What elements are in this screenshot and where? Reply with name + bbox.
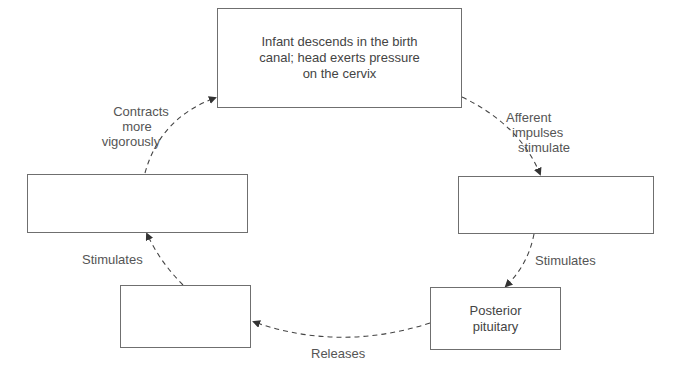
edge-label-line: Releases: [311, 346, 365, 361]
edge-label-line: vigorously: [82, 134, 180, 149]
edge-label-line: impulses: [506, 125, 570, 140]
node-left-middle-blank: [27, 174, 248, 233]
node-bottom-left-blank: [120, 285, 251, 348]
edge-label-line: Stimulates: [82, 252, 143, 267]
edge-label-releases: Releases: [311, 346, 365, 361]
node-text-line: pituitary: [469, 319, 521, 335]
node-text-line: Posterior: [469, 303, 521, 319]
edge-label-afferent-impulses: Afferent impulses stimulate: [506, 110, 570, 155]
edge-label-line: Afferent: [506, 110, 570, 125]
node-text-line: on the cervix: [259, 66, 419, 82]
arrow-right-middle-to-pituitary: [506, 234, 534, 286]
arrow-pituitary-to-bottom-left: [254, 322, 430, 337]
node-infant-descends: Infant descends in the birth canal; head…: [217, 8, 462, 108]
edge-label-line: more: [82, 119, 180, 134]
node-right-middle-blank: [458, 176, 654, 234]
node-posterior-pituitary: Posterior pituitary: [430, 287, 561, 350]
arrow-bottom-left-to-left-middle: [147, 234, 183, 285]
node-text-line: canal; head exerts pressure: [259, 50, 419, 66]
edge-label-contracts-more-vigorously: Contracts more vigorously: [82, 104, 180, 149]
edge-label-line: Stimulates: [535, 253, 596, 268]
edge-label-stimulates-left: Stimulates: [82, 252, 143, 267]
node-text-line: Infant descends in the birth: [259, 34, 419, 50]
edge-label-line: stimulate: [506, 140, 570, 155]
edge-label-stimulates-right: Stimulates: [535, 253, 596, 268]
edge-label-line: Contracts: [82, 104, 180, 119]
